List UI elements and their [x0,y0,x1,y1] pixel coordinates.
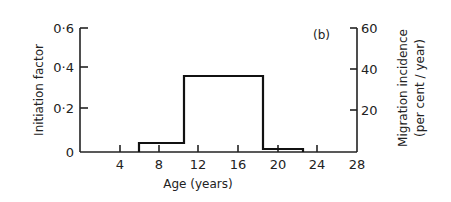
y2-tick-60: 60 [361,21,378,36]
y2-tick-20: 20 [361,103,378,118]
x-tick-24: 24 [309,157,326,172]
y2-axis-label-line2: (per cent / year) [413,39,427,137]
x-tick-20: 20 [270,157,287,172]
x-tick-28: 28 [349,157,366,172]
y-tick-0.6: 0·6 [53,21,74,36]
right-y-axis [350,28,357,152]
panel-label: (b) [313,28,330,42]
y-tick-0: 0 [66,145,74,160]
x-axis-label: Age (years) [163,177,232,191]
x-tick-12: 12 [190,157,207,172]
y2-axis-label-line1: Migration incidence [396,29,410,147]
y2-tick-40: 40 [361,62,378,77]
histogram-chart: 0·6 0·4 0·2 0 60 40 20 4 8 12 16 20 24 2… [0,0,451,202]
x-tick-16: 16 [230,157,247,172]
x-axis [80,145,357,152]
histogram-steps [139,76,303,152]
x-tick-8: 8 [155,157,163,172]
y-tick-0.4: 0·4 [53,60,74,75]
y-axis-label: Initiation factor [32,44,46,136]
x-tick-4: 4 [116,157,124,172]
left-y-axis [80,28,88,152]
y-tick-0.2: 0·2 [53,101,74,116]
